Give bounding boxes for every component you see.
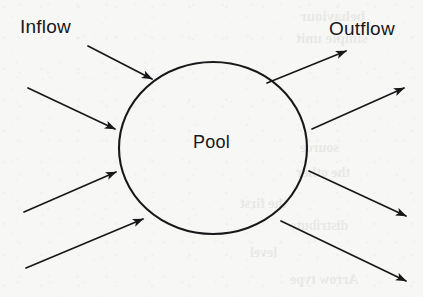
inflow-arrow-group <box>24 46 152 268</box>
inflow-arrow-4 <box>26 219 143 268</box>
inflow-arrow-1 <box>88 46 152 79</box>
inflow-arrow-2 <box>28 88 115 129</box>
pool-diagram: behavioursimple unitsourcethe otherthe f… <box>0 0 423 297</box>
outflow-arrow-3 <box>309 171 406 216</box>
outflow-label: Outflow <box>329 18 395 40</box>
outflow-arrow-2 <box>312 88 404 129</box>
outflow-arrow-1 <box>267 51 346 83</box>
inflow-label: Inflow <box>20 16 71 38</box>
outflow-arrow-group <box>267 51 406 281</box>
outflow-arrow-4 <box>281 221 406 281</box>
pool-label: Pool <box>193 132 230 153</box>
inflow-arrow-3 <box>24 172 116 212</box>
